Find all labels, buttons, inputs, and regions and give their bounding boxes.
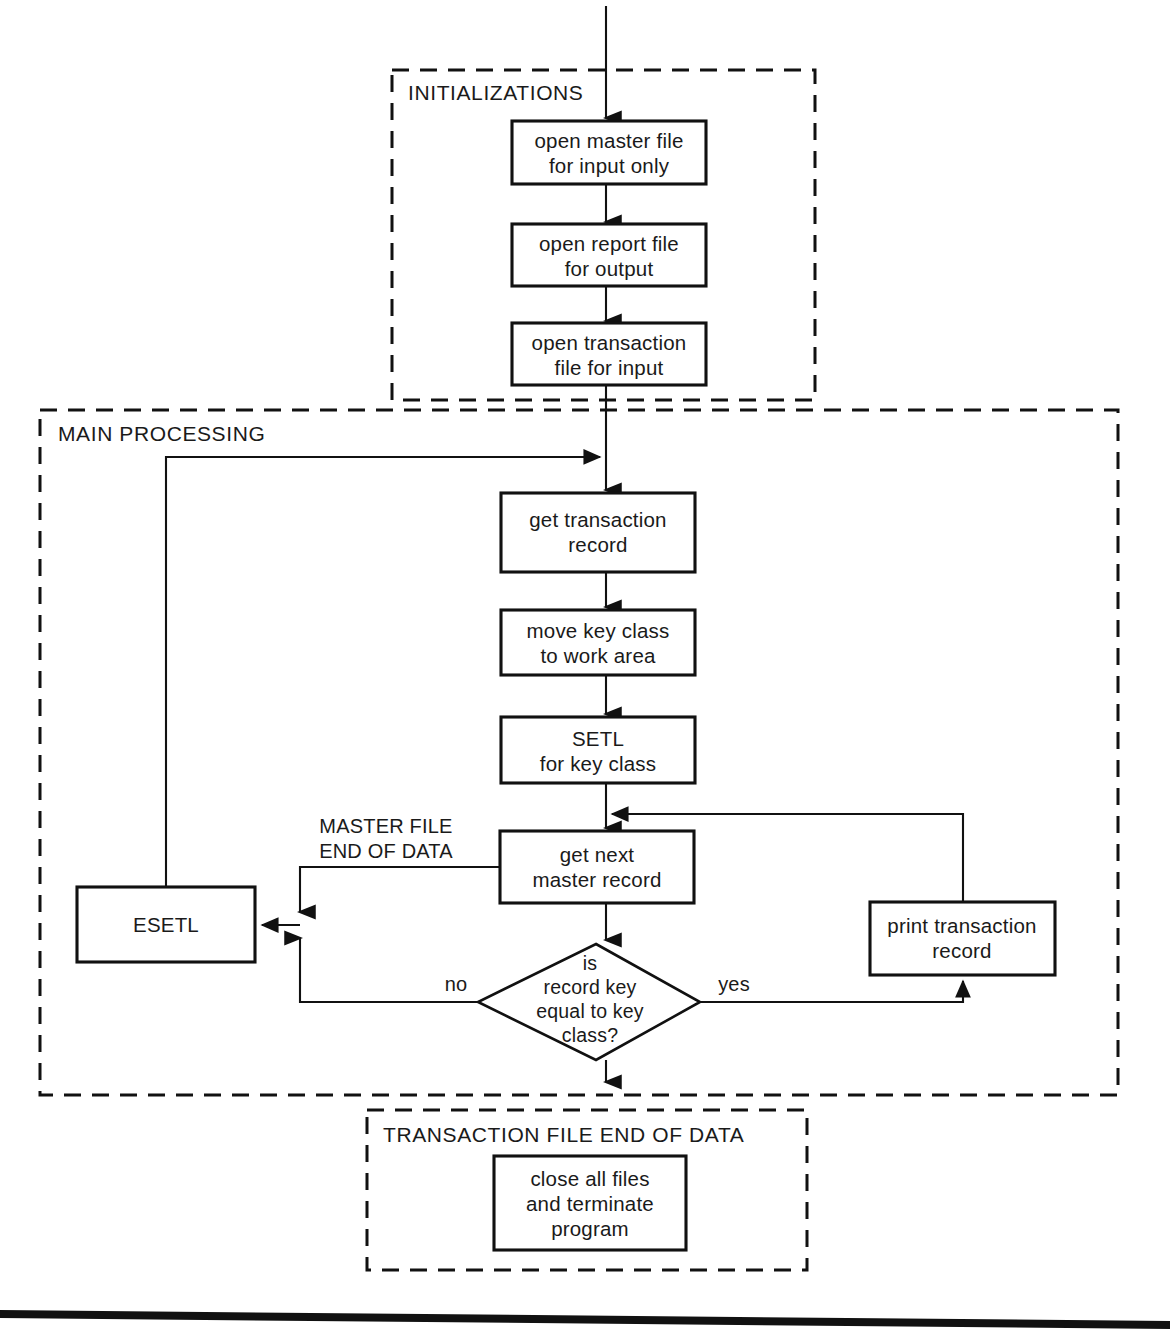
node-close-all-files-line1: close all files	[530, 1167, 649, 1190]
group-label-transaction-end-of-data: TRANSACTION FILE END OF DATA	[383, 1123, 744, 1146]
node-move-key-class-line2: to work area	[540, 644, 656, 667]
node-open-report-file[interactable]: open report file for output	[512, 224, 706, 286]
group-label-main-processing: MAIN PROCESSING	[58, 422, 265, 445]
node-setl-line1: SETL	[572, 727, 624, 750]
node-open-transaction-file[interactable]: open transaction file for input	[512, 323, 706, 385]
node-esetl-line1: ESETL	[133, 913, 199, 936]
node-close-all-files[interactable]: close all files and terminate program	[494, 1156, 686, 1250]
node-get-transaction-record-line1: get transaction	[529, 508, 666, 531]
node-decision-key-compare-line3: equal to key	[536, 1000, 644, 1022]
node-esetl[interactable]: ESETL	[77, 887, 255, 962]
node-open-report-file-line1: open report file	[539, 232, 679, 255]
edge-label-master-end-of-data-line1: MASTER FILE	[319, 815, 452, 837]
node-get-next-master-record-line1: get next	[560, 843, 635, 866]
node-close-all-files-line2: and terminate	[526, 1192, 654, 1215]
node-open-master-file-line1: open master file	[534, 129, 683, 152]
node-setl[interactable]: SETL for key class	[501, 717, 695, 783]
node-get-transaction-record[interactable]: get transaction record	[501, 493, 695, 572]
node-move-key-class[interactable]: move key class to work area	[501, 610, 695, 675]
flowchart-svg: INITIALIZATIONS MAIN PROCESSING TRANSACT…	[0, 0, 1170, 1337]
node-print-transaction-record-line2: record	[932, 939, 991, 962]
edge-master-end-of-data-to-esetl-junction	[300, 867, 500, 912]
flowchart-canvas: INITIALIZATIONS MAIN PROCESSING TRANSACT…	[0, 0, 1170, 1337]
node-get-transaction-record-line2: record	[568, 533, 627, 556]
edge-label-master-end-of-data-line2: END OF DATA	[319, 840, 453, 862]
node-decision-key-compare-line2: record key	[543, 976, 636, 998]
node-open-transaction-file-line1: open transaction	[532, 331, 687, 354]
group-label-initializations: INITIALIZATIONS	[408, 81, 583, 104]
node-open-report-file-line2: for output	[565, 257, 654, 280]
node-decision-key-compare[interactable]: is record key equal to key class?	[478, 944, 700, 1060]
page-footer-rule	[0, 1310, 1170, 1329]
edge-label-yes: yes	[718, 973, 750, 995]
node-move-key-class-line1: move key class	[527, 619, 670, 642]
edge-label-no: no	[445, 973, 468, 995]
node-print-transaction-record[interactable]: print transaction record	[870, 902, 1055, 975]
node-get-next-master-record-line2: master record	[532, 868, 661, 891]
node-setl-line2: for key class	[540, 752, 657, 775]
node-decision-key-compare-line1: is	[583, 952, 598, 974]
node-open-master-file[interactable]: open master file for input only	[512, 121, 706, 184]
node-open-transaction-file-line2: file for input	[555, 356, 664, 379]
node-open-master-file-line2: for input only	[549, 154, 670, 177]
node-get-next-master-record[interactable]: get next master record	[500, 831, 694, 903]
node-print-transaction-record-line1: print transaction	[887, 914, 1036, 937]
node-decision-key-compare-line4: class?	[562, 1024, 618, 1046]
node-close-all-files-line3: program	[551, 1217, 629, 1240]
